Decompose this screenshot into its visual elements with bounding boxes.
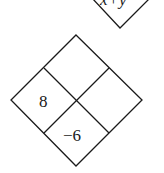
cell-left: 8	[39, 93, 48, 110]
cell-bottom: −6	[63, 127, 81, 144]
top-diamond-label: x+y	[100, 0, 127, 8]
diamond-diagram	[0, 0, 164, 173]
